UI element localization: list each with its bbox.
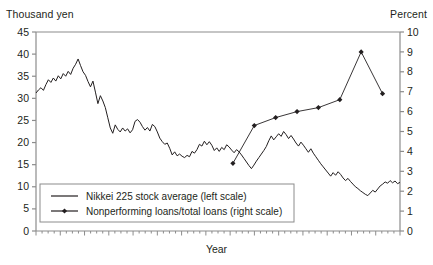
legend-label-npl: Nonperforming loans/total loans (right s… — [86, 206, 282, 217]
series-nonperforming-loans — [230, 49, 385, 166]
svg-text:45: 45 — [17, 26, 29, 38]
right-axis-ticks: 012345678910 — [400, 26, 419, 237]
svg-text:40: 40 — [17, 48, 29, 60]
chart-plot-area: 051015202530354045 012345678910 Nikkei 2… — [0, 0, 433, 265]
svg-text:4: 4 — [407, 145, 413, 157]
svg-text:8: 8 — [407, 65, 413, 77]
svg-text:2: 2 — [407, 185, 413, 197]
x-axis-ticks — [36, 231, 400, 236]
svg-text:0: 0 — [407, 225, 413, 237]
svg-text:20: 20 — [17, 136, 29, 148]
legend-item-npl: Nonperforming loans/total loans (right s… — [51, 206, 282, 217]
svg-text:3: 3 — [407, 165, 413, 177]
svg-text:25: 25 — [17, 114, 29, 126]
svg-text:15: 15 — [17, 158, 29, 170]
svg-text:0: 0 — [23, 225, 29, 237]
svg-text:10: 10 — [17, 180, 29, 192]
svg-text:30: 30 — [17, 92, 29, 104]
left-axis-ticks: 051015202530354045 — [17, 26, 36, 237]
chart-figure: Thousand yen Percent 051015202530354045 … — [0, 0, 433, 265]
svg-text:6: 6 — [407, 105, 413, 117]
x-axis-title: Year — [0, 243, 433, 255]
chart-legend: Nikkei 225 stock average (left scale) No… — [40, 184, 294, 222]
svg-text:5: 5 — [407, 125, 413, 137]
svg-text:7: 7 — [407, 85, 413, 97]
svg-text:1: 1 — [407, 205, 413, 217]
legend-label-nikkei: Nikkei 225 stock average (left scale) — [86, 191, 247, 202]
svg-text:9: 9 — [407, 46, 413, 58]
series-nikkei-225 — [36, 59, 400, 196]
svg-text:10: 10 — [407, 26, 419, 38]
svg-text:5: 5 — [23, 202, 29, 214]
svg-text:35: 35 — [17, 70, 29, 82]
